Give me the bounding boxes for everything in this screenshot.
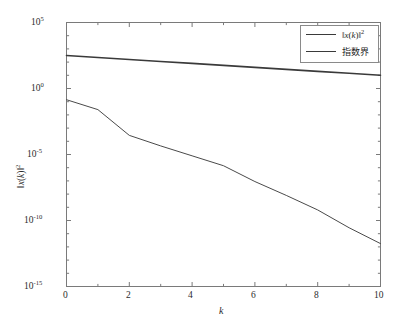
figure-canvas: 105 100 10-5 10-10 10-15 0 2 4 6 8 10 ‖x… — [0, 0, 408, 330]
legend-item-signal[interactable]: ‖x(k)‖2 — [301, 26, 378, 43]
ytick-label: 100 — [31, 83, 44, 93]
legend-label: 指数界 — [342, 45, 369, 58]
ytick-label: 10-10 — [24, 215, 42, 225]
legend-swatch-line-icon — [306, 34, 336, 35]
legend-item-bound[interactable]: 指数界 — [301, 43, 378, 60]
xtick-label: 8 — [314, 290, 319, 300]
legend-label: ‖x(k)‖2 — [342, 30, 364, 40]
xtick-label: 2 — [126, 290, 131, 300]
legend: ‖x(k)‖2 指数界 — [300, 25, 379, 63]
x-axis-label: k — [219, 305, 223, 316]
xtick-label: 6 — [251, 290, 256, 300]
ytick-label: 10-15 — [24, 281, 42, 291]
ytick-label: 105 — [31, 17, 44, 27]
xtick-label: 4 — [188, 290, 193, 300]
xtick-label: 10 — [374, 290, 384, 300]
ytick-label: 10-5 — [27, 149, 42, 159]
xtick-label: 0 — [63, 290, 68, 300]
legend-swatch-line-icon — [306, 51, 336, 52]
y-axis-label: ‖x(k)‖2 — [16, 165, 26, 188]
